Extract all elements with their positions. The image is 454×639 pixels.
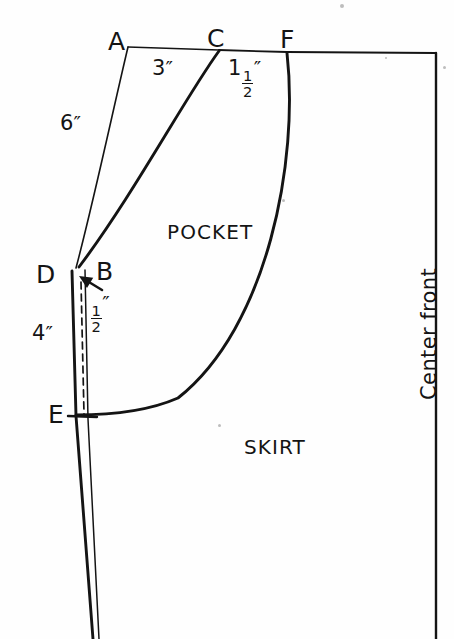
dimension-half-inch: 12″: [90, 293, 109, 334]
left-edge-de: [72, 271, 76, 416]
region-label-pocket: POCKET: [167, 222, 253, 242]
left-edge-e-to-hem: [76, 416, 93, 639]
paper-speck: [282, 199, 285, 202]
waistline-segment-cf: [219, 50, 287, 52]
waistline-segment-f-to-center-front: [287, 52, 436, 53]
center-front-label: Center front: [419, 268, 440, 400]
point-label-c: C: [207, 26, 225, 51]
dimension-3-inch: 3″: [152, 58, 172, 79]
waistline-segment-ac: [128, 47, 219, 50]
paper-speck: [443, 66, 446, 69]
paper-speck: [340, 4, 344, 8]
point-label-f: F: [280, 27, 295, 52]
dimension-6-inch: 6″: [60, 113, 80, 134]
paper-speck: [385, 57, 387, 59]
dimension-1-and-half-inch: 112″: [228, 58, 261, 99]
dimension-4-inch: 4″: [32, 323, 52, 344]
region-label-skirt: SKIRT: [244, 437, 306, 457]
hem-tick-at-e: [68, 416, 97, 417]
point-label-e: E: [48, 402, 64, 427]
point-label-d: D: [36, 262, 55, 287]
paper-speck: [218, 424, 221, 427]
point-label-b: B: [96, 259, 113, 284]
point-label-a: A: [108, 29, 125, 54]
pattern-diagram: A C F D B E 6″ 3″ 112″ 12″ 4″ POCKET SKI…: [0, 0, 454, 639]
pattern-drawing-canvas: [0, 0, 454, 639]
dart-dashed-line: [81, 282, 84, 414]
